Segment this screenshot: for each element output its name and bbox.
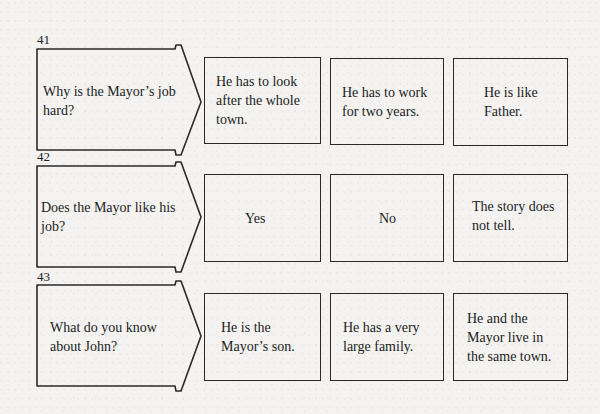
option-label: He has to look after the whole town. (205, 72, 320, 129)
option-label: He has to work for two years. (331, 83, 443, 121)
option-label: He is the Mayor’s son. (205, 318, 320, 356)
question-43-option-a[interactable]: He is the Mayor’s son. (204, 293, 321, 381)
option-label: The story does not tell. (454, 197, 567, 235)
question-text-42: Does the Mayor like his job? (41, 198, 197, 236)
question-42-option-c[interactable]: The story does not tell. (453, 174, 568, 262)
question-43-option-c[interactable]: He and the Mayor live in the same town. (453, 293, 568, 381)
question-text-43: What do you know about John? (50, 318, 175, 356)
question-number-43: 43 (37, 270, 50, 283)
question-number-42: 42 (37, 150, 50, 163)
question-41-option-b[interactable]: He has to work for two years. (330, 58, 444, 145)
option-label: No (331, 209, 443, 228)
option-label: He and the Mayor live in the same town. (454, 309, 567, 366)
question-41-option-a[interactable]: He has to look after the whole town. (204, 57, 321, 144)
question-number-41: 41 (37, 33, 50, 46)
question-41-option-c[interactable]: He is like Father. (453, 58, 568, 146)
option-label: Yes (205, 209, 320, 228)
question-42-option-b[interactable]: No (330, 174, 444, 262)
option-label: He has a very large family. (331, 318, 443, 356)
question-42-option-a[interactable]: Yes (204, 174, 321, 262)
question-text-41: Why is the Mayor’s job hard? (43, 82, 193, 120)
question-43-option-b[interactable]: He has a very large family. (330, 293, 444, 381)
option-label: He is like Father. (454, 83, 567, 121)
